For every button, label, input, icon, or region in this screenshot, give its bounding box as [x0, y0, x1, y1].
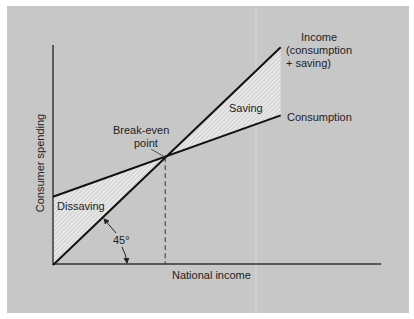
- break-even-leader: [151, 149, 165, 157]
- income-label-line-2: (consumption: [286, 44, 352, 56]
- x-axis-label: National income: [172, 269, 251, 281]
- consumption-label: Consumption: [287, 111, 352, 123]
- saving-label: Saving: [229, 102, 263, 114]
- chart: Income (consumption + saving) Consumptio…: [0, 0, 414, 319]
- dissaving-label: Dissaving: [57, 200, 105, 212]
- income-label-line-1: Income: [301, 31, 337, 43]
- break-even-label-line-2: point: [134, 137, 158, 149]
- income-label-line-3: + saving): [286, 57, 331, 69]
- angle-arc-lower: [122, 247, 127, 263]
- angle-arc-upper: [104, 219, 116, 233]
- angle-label: 45°: [113, 234, 130, 246]
- y-axis-label: Consumer spending: [34, 114, 46, 212]
- break-even-label-line-1: Break-even: [113, 124, 169, 136]
